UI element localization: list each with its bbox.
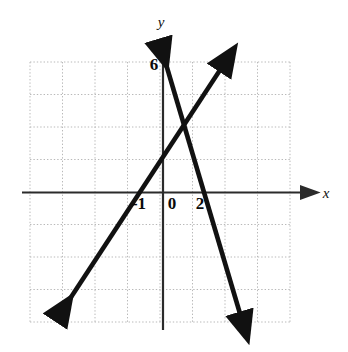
- tick-label-six: 6: [150, 55, 159, 74]
- coordinate-plane-svg: x y -1 0 2 6: [0, 0, 348, 352]
- y-axis-label: y: [156, 14, 165, 30]
- x-axis-label: x: [322, 185, 330, 201]
- falling-line: [160, 44, 241, 317]
- tick-label-neg-one: -1: [132, 194, 146, 213]
- tick-label-two: 2: [196, 194, 205, 213]
- graph-figure: x y -1 0 2 6: [0, 0, 348, 352]
- tick-label-zero: 0: [168, 194, 177, 213]
